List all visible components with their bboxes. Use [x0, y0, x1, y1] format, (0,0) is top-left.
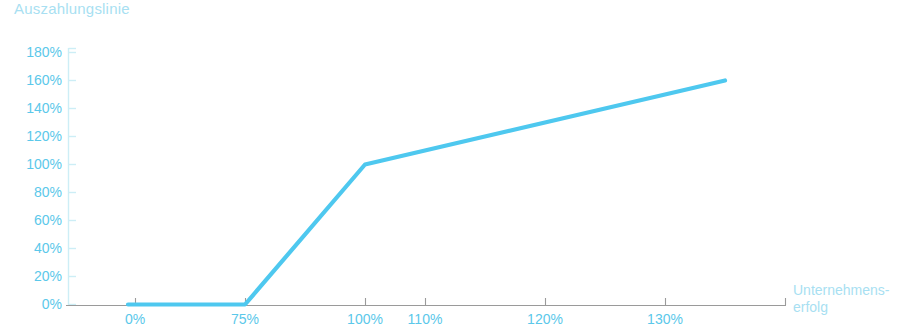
x-axis-title: Unternehmens- erfolg: [793, 282, 890, 316]
chart-container: Auszahlungslinie 180% 160% 140% 120% 100…: [0, 0, 917, 332]
x-tick-label-0: 0%: [125, 311, 145, 327]
x-tick-label-100: 100%: [347, 311, 383, 327]
payout-line-series: [128, 81, 725, 305]
y-axis-ticks: [69, 53, 77, 305]
x-axis-title-line1: Unternehmens-: [793, 282, 890, 298]
x-tick-label-110: 110%: [408, 311, 443, 327]
x-tick-label-130: 130%: [647, 311, 683, 327]
x-tick-label-120: 120%: [527, 311, 563, 327]
x-axis-title-line2: erfolg: [793, 299, 890, 316]
chart-plot-area: [0, 0, 917, 332]
x-tick-label-75: 75%: [231, 311, 259, 327]
